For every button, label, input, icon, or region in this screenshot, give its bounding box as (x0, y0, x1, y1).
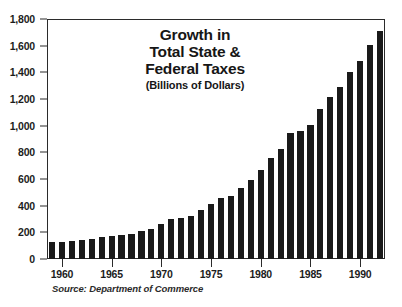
y-axis-tickmark (40, 179, 47, 180)
x-axis-tick-label: 1970 (150, 268, 173, 280)
x-axis-tickmark (261, 259, 262, 267)
y-axis-tickmark (40, 152, 47, 153)
bar (317, 109, 323, 259)
y-axis-tick-label: 800 (18, 146, 35, 158)
bar (297, 131, 303, 259)
y-axis-tick-label: 1,800 (10, 13, 35, 25)
bar (377, 31, 383, 259)
x-axis-tick-label: 1980 (249, 268, 272, 280)
bar (188, 216, 194, 259)
y-axis-tick-label: 200 (18, 226, 35, 238)
x-axis-tickmark (360, 259, 361, 267)
y-axis-tick-label: 1,200 (10, 93, 35, 105)
bar (228, 196, 234, 259)
y-axis-tick-label: 600 (18, 173, 35, 185)
y-axis-tickmark (40, 205, 47, 206)
bar (148, 229, 154, 259)
y-axis-tickmark (40, 19, 47, 20)
x-axis-tick-label: 1965 (100, 268, 123, 280)
bar (198, 210, 204, 259)
bar (158, 224, 164, 259)
y-axis-tick-label: 1,600 (10, 40, 35, 52)
bar (248, 180, 254, 259)
bar (59, 242, 65, 259)
y-axis-tickmark (40, 72, 47, 73)
bar (69, 241, 75, 259)
tax-growth-bar-chart: 1,8001,6001,4001,2001,0008006004002000 1… (0, 0, 402, 307)
x-axis-tickmark (112, 259, 113, 267)
bar (357, 61, 363, 259)
x-axis-tickmark (211, 259, 212, 267)
y-axis-tickmark (40, 45, 47, 46)
bar (218, 198, 224, 259)
bar (128, 234, 134, 259)
source-note: Source: Department of Commerce (52, 283, 203, 294)
y-axis-tick-label: 400 (18, 200, 35, 212)
bar (99, 237, 105, 259)
bar (49, 242, 55, 259)
bar (347, 72, 353, 259)
bar (168, 219, 174, 259)
bar (138, 231, 144, 259)
x-axis-tick-label: 1960 (51, 268, 74, 280)
bar (109, 236, 115, 259)
x-axis-tickmark (62, 259, 63, 267)
x-axis-tick-label: 1985 (299, 268, 322, 280)
y-axis-tickmark (40, 232, 47, 233)
bar (337, 87, 343, 259)
bar (367, 45, 373, 259)
bar (79, 240, 85, 259)
bar (208, 204, 214, 259)
bar (278, 149, 284, 259)
y-axis-tick-label: 1,400 (10, 66, 35, 78)
y-axis-tickmark (40, 99, 47, 100)
bar (307, 125, 313, 259)
bar (287, 133, 293, 259)
bar (89, 239, 95, 259)
bar (327, 97, 333, 259)
x-axis-tickmark (310, 259, 311, 267)
bar (258, 170, 264, 259)
y-axis-tick-label: 1,000 (10, 120, 35, 132)
y-axis-tickmark (40, 125, 47, 126)
bar (268, 158, 274, 259)
x-axis-tickmark (161, 259, 162, 267)
bar (238, 188, 244, 259)
bar (178, 218, 184, 259)
x-axis-tick-label: 1975 (200, 268, 223, 280)
bar (118, 235, 124, 259)
x-axis-tick-label: 1990 (349, 268, 372, 280)
